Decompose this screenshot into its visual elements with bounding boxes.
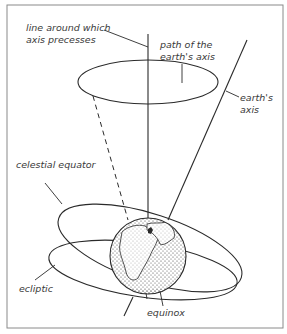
- leader-ecliptic: [35, 265, 55, 280]
- label-precession-line: line around which axis precesses: [26, 22, 114, 45]
- earth-globe: [108, 216, 188, 296]
- earth-axis-lower: [124, 297, 133, 316]
- label-axis-path: path of the earth's axis: [159, 39, 215, 62]
- precession-diagram: line around which axis precesses path of…: [0, 0, 287, 334]
- label-earth-axis: earth's axis: [240, 92, 276, 115]
- leader-earth-axis: [226, 91, 239, 97]
- earth-axis-line: [168, 40, 247, 220]
- leader-celestial-equator: [45, 183, 62, 204]
- leader-equinox: [160, 291, 163, 306]
- label-equinox: equinox: [147, 307, 185, 318]
- label-ecliptic: ecliptic: [19, 283, 54, 294]
- cone-dashed-edge: [93, 96, 128, 220]
- label-celestial-equator: celestial equator: [16, 159, 97, 170]
